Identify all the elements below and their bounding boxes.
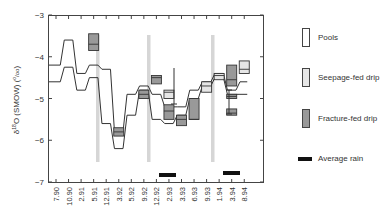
x-tick-label: 3.93 [178,187,187,202]
rain-bar-icon [298,157,312,161]
y-tick-label: −6 [35,136,45,145]
x-tick-label: 12.91 [102,187,111,206]
y-tick-label: −5 [35,95,45,104]
x-tick-label: 5.92 [127,187,136,202]
x-tick-label: 3.94 [228,187,237,202]
legend-label: Fracture-fed drip [318,114,377,123]
chart-legend: Pools Seepage-fed drip Fracture-fed drip… [280,0,380,200]
y-axis-label: δ18O (SMOW) (o/oo) [11,66,21,135]
seepage-swatch-icon [302,68,310,87]
x-tick-label: 6.93 [190,187,199,202]
legend-item-seepage: Seepage-fed drip [302,68,379,87]
y-tick-label: −3 [35,11,45,20]
x-tick-label: 8.94 [240,187,249,202]
y-tick-label: −7 [35,178,45,187]
legend-label: Pools [318,33,338,42]
fracture-swatch-icon [302,109,310,128]
x-tick-label: 1.94 [215,187,224,202]
legend-item-fracture: Fracture-fed drip [302,109,377,128]
x-tick-label: 10.90 [65,187,74,206]
x-tick-label: 5.91 [90,187,99,202]
y-tick-label: −4 [35,53,45,62]
x-tick-label: 2.93 [165,187,174,202]
legend-label: Average rain [318,154,363,163]
average-rain-bars [159,171,240,177]
x-tick-label: 7.90 [52,187,61,202]
x-tick-label: 9.92 [140,187,149,202]
x-tick-label: 12.92 [152,187,161,206]
legend-item-pools: Pools [302,28,338,47]
axes [49,16,264,183]
pools-swatch-icon [302,28,310,47]
legend-label: Seepage-fed drip [318,73,379,82]
x-tick-label: 9.93 [203,187,212,202]
x-tick-label: 3.92 [115,187,124,202]
legend-item-rain: Average rain [301,154,363,163]
x-tick-label: 2.91 [77,187,86,202]
